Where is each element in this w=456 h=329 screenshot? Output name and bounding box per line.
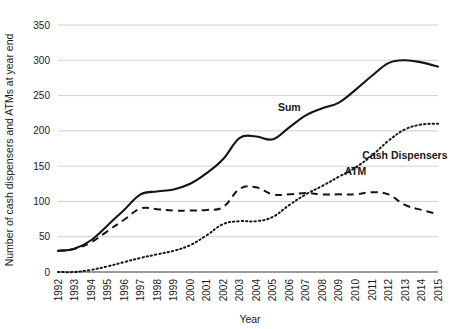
y-axis-tick-label: 50 (39, 231, 51, 242)
series-label-cash-dispensers: Cash Dispensers (362, 149, 447, 161)
x-axis-tick-label: 2005 (267, 279, 278, 302)
x-axis-tick-label: 2008 (317, 279, 328, 302)
series-line-atm (58, 124, 438, 272)
x-axis-tick-label: 2012 (383, 279, 394, 302)
x-axis-tick-label: 1995 (102, 279, 113, 302)
x-axis-tick-label: 2014 (416, 279, 427, 302)
x-axis-tick-label: 1998 (152, 279, 163, 302)
x-axis-tick-label: 2004 (251, 279, 262, 302)
series-annotations: SumATMCash Dispensers (278, 101, 448, 177)
x-axis-tick-label: 2006 (284, 279, 295, 302)
y-axis-tick-label: 150 (33, 161, 50, 172)
x-axis-tick-label: 1992 (53, 279, 64, 302)
x-axis-tick-label: 1993 (69, 279, 80, 302)
chart-container: 050100150200250300350 199219931994199519… (0, 0, 456, 329)
y-axis-tick-labels: 050100150200250300350 (33, 20, 50, 278)
series-label-atm: ATM (344, 165, 366, 177)
y-axis-tick-label: 350 (33, 20, 50, 31)
x-axis-tick-label: 1996 (119, 279, 130, 302)
x-axis-tick-labels: 1992199319941995199619971998199920002001… (53, 279, 444, 302)
x-axis-tick-label: 1994 (86, 279, 97, 302)
x-axis-tick-label: 1999 (168, 279, 179, 302)
x-axis-tick-label: 2002 (218, 279, 229, 302)
x-axis-tick-label: 2000 (185, 279, 196, 302)
x-axis-title: Year (239, 313, 261, 325)
y-axis-tick-label: 0 (44, 267, 50, 278)
y-axis-tick-label: 100 (33, 196, 50, 207)
y-axis-tick-label: 200 (33, 125, 50, 136)
x-axis-tick-label: 2007 (300, 279, 311, 302)
line-chart: 050100150200250300350 199219931994199519… (0, 0, 456, 329)
x-axis-tick-label: 2009 (333, 279, 344, 302)
x-axis-tick-label: 2015 (433, 279, 444, 302)
x-axis-tick-label: 2010 (350, 279, 361, 302)
x-axis-tick-label: 2003 (234, 279, 245, 302)
y-axis-tick-label: 250 (33, 90, 50, 101)
x-axis-tick-label: 2001 (201, 279, 212, 302)
x-axis-tick-label: 2013 (400, 279, 411, 302)
y-axis-tick-label: 300 (33, 55, 50, 66)
x-axis-tick-label: 2011 (367, 279, 378, 301)
y-axis-title: Number of cash dispensers and ATMs at ye… (3, 34, 15, 267)
series-label-sum: Sum (278, 101, 301, 113)
x-axis-tick-label: 1997 (135, 279, 146, 302)
